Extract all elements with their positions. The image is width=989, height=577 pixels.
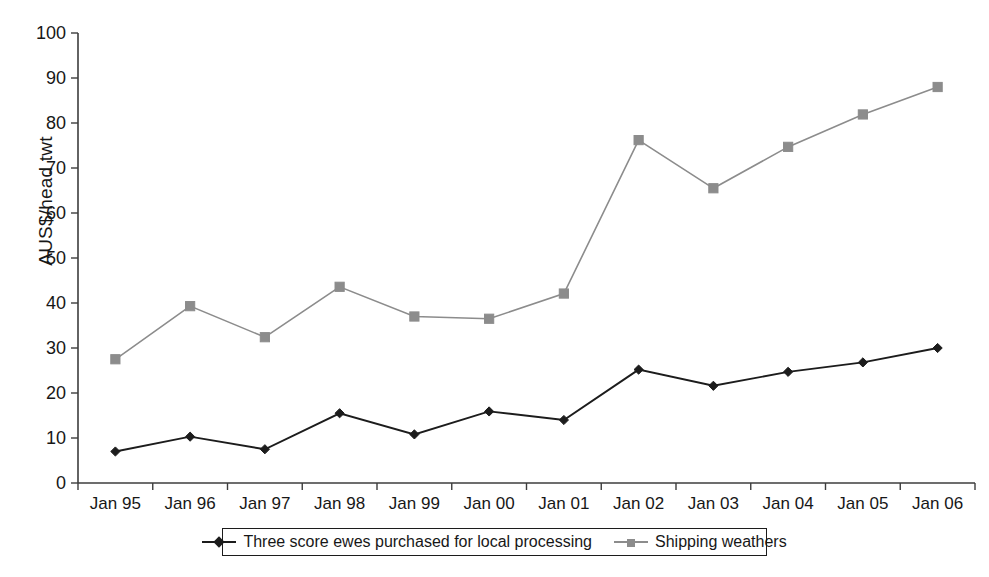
data-point-marker [933,343,942,352]
data-point-marker [933,82,942,91]
data-point-marker [858,358,867,367]
legend-item-series-two[interactable]: Shipping weathers [614,533,787,551]
data-point-marker [410,312,419,321]
data-point-marker [335,282,344,291]
data-point-marker [858,110,867,119]
legend-item-series-one[interactable]: Three score ewes purchased for local pro… [202,533,592,551]
data-point-marker [260,445,269,454]
data-point-marker [186,302,195,311]
legend-label-series-two: Shipping weathers [655,533,787,551]
data-point-marker [709,381,718,390]
line-chart: AUS$/head twt 0102030405060708090100 Jan… [0,0,989,577]
series-line-1 [115,348,937,452]
square-marker-icon [614,536,648,548]
data-point-marker [784,367,793,376]
data-point-marker [485,314,494,323]
series-line-2 [115,87,937,359]
data-point-marker [186,432,195,441]
plot-area [0,0,989,577]
data-point-marker [335,409,344,418]
data-point-marker [634,136,643,145]
data-point-marker [709,184,718,193]
series-1 [111,343,942,456]
data-point-marker [784,142,793,151]
legend-label-series-one: Three score ewes purchased for local pro… [243,533,592,551]
data-point-marker [410,430,419,439]
chart-legend: Three score ewes purchased for local pro… [222,528,767,556]
series-2 [111,82,942,363]
data-point-marker [111,447,120,456]
data-point-marker [559,289,568,298]
data-point-marker [260,333,269,342]
data-point-marker [485,407,494,416]
data-point-marker [111,355,120,364]
diamond-marker-icon [202,536,236,548]
